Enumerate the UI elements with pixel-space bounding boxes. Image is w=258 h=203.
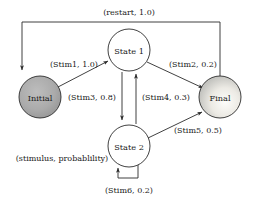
edge-label-stim4: (Stim4, 0.3) [142,93,190,102]
edge-label-stim3: (Stim3, 0.8) [68,93,116,102]
edge-label-restart: (restart, 1.0) [103,8,155,17]
edge-label-stim5: (Stim5, 0.5) [174,126,222,135]
edge-label-stim6: (Stim6, 0.2) [105,186,153,195]
node-final-label: Final [209,93,230,103]
node-initial-label: Initial [28,93,53,103]
node-state-1-label: State 1 [114,46,144,56]
legend-annotation: (stimulus, probablility) [16,154,109,163]
edge-label-stim1: (Stim1, 1.0) [50,60,98,69]
edge-label-stim2: (Stim2, 0.2) [169,60,217,69]
node-state-2-label: State 2 [114,142,144,152]
state-diagram: Initial State 1 State 2 Final (restart, … [0,0,258,203]
diagram-canvas: Initial State 1 State 2 Final (restart, … [0,0,258,203]
